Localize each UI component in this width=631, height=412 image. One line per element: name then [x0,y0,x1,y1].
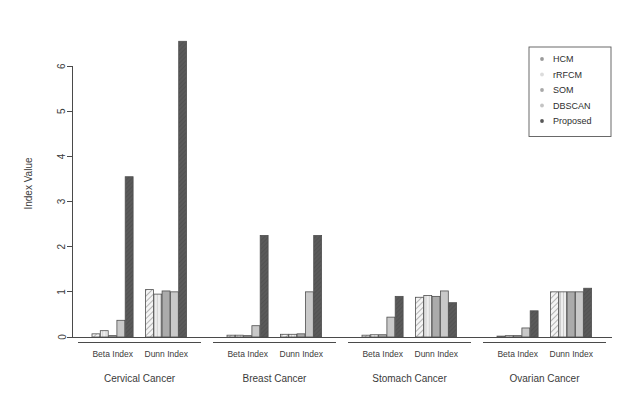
bar [416,297,424,337]
legend-marker-dbscan [540,104,544,108]
x-axis-category-label: Beta Index [362,349,403,359]
x-axis-category-label: Dunn Index [550,349,594,359]
legend-label-som: SOM [553,85,574,95]
bar [395,296,403,337]
bar [567,292,575,337]
chart-canvas: 0123456 Index Value Beta IndexDunn Index… [0,0,631,412]
y-axis-title-label: Index Value [23,157,34,210]
x-axis-category-label: Beta Index [497,349,538,359]
legend-marker-rrfcm [540,73,544,77]
bar [551,292,559,337]
y-axis-tick-label: 1 [57,289,68,295]
bar [530,311,538,337]
bar [559,292,567,337]
bar [260,235,268,337]
legend-label-dbscan: DBSCAN [553,101,591,111]
legend-marker-proposed [540,119,544,123]
x-axis-category-label: Dunn Index [145,349,189,359]
bar [179,41,187,337]
y-axis-tick-label: 3 [57,198,68,204]
y-axis-title: Index Value [23,157,34,210]
y-axis-tick-label: 4 [57,153,68,159]
x-axis-category-label: Beta Index [92,349,133,359]
x-axis-group-label: Breast Cancer [243,373,308,384]
bar [305,292,313,337]
y-axis-tick-label: 6 [57,63,68,69]
bar [432,296,440,337]
bar [314,235,322,337]
x-axis-category-label: Dunn Index [280,349,324,359]
bar [100,331,108,337]
y-axis-tick-label: 2 [57,243,68,249]
bar [522,328,530,337]
bar [117,320,125,337]
bar [575,292,583,337]
chart-legend: HCMrRFCMSOMDBSCANProposed [529,47,611,137]
legend-label-proposed: Proposed [553,116,592,126]
legend-marker-som [540,88,544,92]
bar [154,294,162,337]
bar-chart-figure: 0123456 Index Value Beta IndexDunn Index… [0,0,631,412]
bar [387,317,395,337]
bar [125,177,133,337]
bar [146,290,154,337]
bar [584,288,592,337]
bar [252,326,260,337]
bar [440,291,448,337]
legend-marker-hcm [540,57,544,61]
legend-label-hcm: HCM [553,54,574,64]
y-axis-tick-label: 5 [57,108,68,114]
x-axis-group-label: Ovarian Cancer [509,373,580,384]
bar [162,291,170,337]
bar [170,292,178,337]
x-axis-category-label: Beta Index [227,349,268,359]
bar [449,303,457,337]
bar [424,295,432,337]
x-axis-group-label: Cervical Cancer [104,373,176,384]
y-axis-tick-label: 0 [57,334,68,340]
x-axis-category-label: Dunn Index [415,349,459,359]
x-axis-group-label: Stomach Cancer [372,373,447,384]
legend-label-rrfcm: rRFCM [553,70,582,80]
